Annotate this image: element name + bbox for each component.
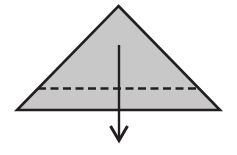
origami-fold-diagram (0, 0, 237, 155)
diagram-canvas (0, 0, 237, 155)
